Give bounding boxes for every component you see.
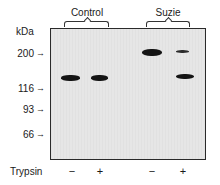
- lane-4-treatment: +: [177, 165, 189, 177]
- marker-label: 116: [18, 83, 34, 94]
- band-suzie-plus-130: [176, 74, 194, 79]
- lane-3-treatment: −: [146, 165, 158, 177]
- marker-label: 93: [23, 104, 34, 115]
- marker-label: 200: [17, 48, 34, 59]
- treatment-label: Trypsin: [10, 166, 42, 177]
- band-suzie-plus-200-faint: [176, 50, 189, 53]
- axis-unit-label: kDa: [16, 26, 34, 37]
- bracket-control: [64, 21, 109, 27]
- marker-label: 66: [23, 129, 34, 140]
- band-control-minus-130: [61, 75, 80, 81]
- western-blot-panel: [50, 28, 206, 160]
- bracket-suzie: [146, 21, 190, 27]
- band-control-plus-130: [91, 75, 108, 81]
- band-suzie-minus-200: [142, 49, 162, 56]
- marker-66: 66: [0, 129, 34, 140]
- lane-2-treatment: +: [94, 165, 106, 177]
- lane-1-treatment: −: [66, 165, 78, 177]
- arrow-icon: →: [36, 104, 45, 114]
- marker-116: 116: [0, 83, 34, 94]
- marker-93: 93: [0, 104, 34, 115]
- arrow-icon: →: [36, 129, 45, 139]
- arrow-icon: →: [36, 48, 45, 58]
- marker-200: 200: [0, 48, 34, 59]
- arrow-icon: →: [36, 83, 45, 93]
